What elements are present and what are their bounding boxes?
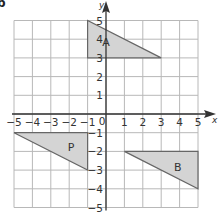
coordinate-plane: APB xy −5−4−3−2−112345054321−1−2−3−4−5	[0, 0, 218, 212]
x-axis-label: x	[211, 115, 218, 125]
y-tick-label: 3	[96, 52, 103, 64]
x-tick-label: 2	[139, 116, 146, 128]
shape-label-p: P	[68, 141, 75, 154]
y-tick-label: 1	[96, 89, 103, 101]
y-tick-label: 2	[96, 71, 103, 83]
y-tick-label: −1	[88, 127, 103, 139]
y-tick-label: −5	[88, 202, 103, 213]
x-tick-label: 5	[195, 116, 202, 128]
y-tick-label: 5	[96, 15, 103, 27]
y-tick-label: 4	[96, 33, 103, 45]
shape-label-b: B	[174, 161, 182, 174]
y-tick-label: −4	[88, 183, 104, 195]
x-tick-label: −4	[25, 116, 41, 128]
y-tick-label: −2	[88, 145, 103, 157]
origin-label: 0	[99, 115, 106, 127]
y-tick-label: −3	[88, 164, 103, 176]
x-tick-label: −3	[43, 116, 58, 128]
x-tick-label: 1	[121, 116, 128, 128]
x-tick-label: 4	[176, 116, 183, 128]
x-tick-label: 3	[158, 116, 165, 128]
x-tick-label: −5	[6, 116, 21, 128]
y-axis-label: y	[98, 0, 105, 10]
part-label: b	[0, 0, 6, 10]
x-tick-label: −2	[61, 116, 76, 128]
coordinate-grid-figure: b APB xy −5−4−3−2−112345054321−1−2−3−4−5	[0, 0, 218, 212]
